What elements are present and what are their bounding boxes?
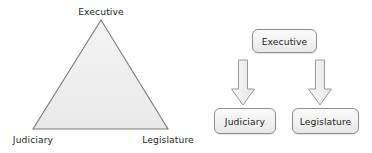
flow-box-executive-label: Executive [262, 36, 308, 47]
triangle-vertex-label-executive: Executive [78, 6, 124, 17]
triangle-outline [33, 20, 168, 129]
triangle-vertex-label-judiciary: Judiciary [13, 134, 53, 145]
flow-box-judiciary: Judiciary [214, 108, 276, 134]
down-arrow-icon-executive-to-judiciary [230, 59, 256, 107]
triangle-shape-svg [0, 0, 190, 153]
flow-box-legislature-label: Legislature [300, 116, 352, 127]
flow-box-judiciary-label: Judiciary [225, 116, 265, 127]
separation-of-powers-flow-diagram: Executive Judicia [190, 0, 372, 153]
separation-of-powers-triangle-diagram: Executive Judiciary Legislature [0, 0, 190, 153]
diagram-canvas: Executive Judiciary Legislature Executiv… [0, 0, 372, 153]
flow-box-legislature: Legislature [292, 108, 359, 134]
triangle-vertex-label-legislature: Legislature [142, 134, 194, 145]
down-arrow-icon-executive-to-legislature [307, 59, 333, 107]
flow-box-executive: Executive [252, 29, 317, 53]
